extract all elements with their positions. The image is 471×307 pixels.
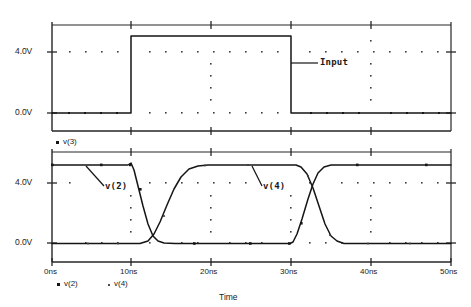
xtick-label-20ns: 20ns	[200, 268, 217, 276]
v4-annotation: v(4)	[263, 182, 285, 191]
panel-top-ylabel-0v: 0.0V	[15, 108, 32, 117]
trace-v3	[52, 36, 451, 113]
xtick-label-10ns: 10ns	[120, 268, 137, 276]
xtick-label-50ns: 50ns	[440, 268, 457, 276]
trace-v4	[52, 165, 451, 244]
panel-top-frame	[47, 21, 456, 135]
v4-leader-line	[252, 166, 262, 186]
square-marker-icon-v3	[56, 141, 59, 144]
v2-leader-line	[86, 166, 104, 186]
input-annotation: Input	[320, 58, 348, 67]
panel-bottom-ylabel-0v: 0.0V	[15, 238, 32, 247]
panel-bottom-legend-v2: v(2)	[64, 280, 78, 288]
xtick-label-30ns: 30ns	[280, 268, 297, 276]
plot-canvas	[0, 0, 471, 307]
square-marker-icon-v2	[57, 283, 60, 286]
trace-v2	[52, 163, 451, 244]
panel-top-grid-dots	[69, 40, 439, 114]
v2-annotation: v(2)	[105, 182, 127, 191]
x-axis-title: Time	[219, 293, 238, 302]
dot-marker-icon-v4	[108, 284, 110, 286]
waveform-figure: 4.0V 0.0V Input v(3) 4.0V 0.0V v(2) v(4)…	[0, 0, 471, 307]
panel-top-ylabel-4v: 4.0V	[15, 47, 32, 56]
trace-v2-markers	[51, 164, 428, 245]
xtick-label-40ns: 40ns	[360, 268, 377, 276]
panel-bottom-ylabel-4v: 4.0V	[15, 178, 32, 187]
panel-bottom-grid-dots	[69, 182, 439, 244]
panel-top-legend-v3: v(3)	[63, 138, 77, 146]
xtick-label-0ns: 0ns	[44, 268, 57, 276]
panel-bottom-legend-v4: v(4)	[114, 280, 128, 288]
